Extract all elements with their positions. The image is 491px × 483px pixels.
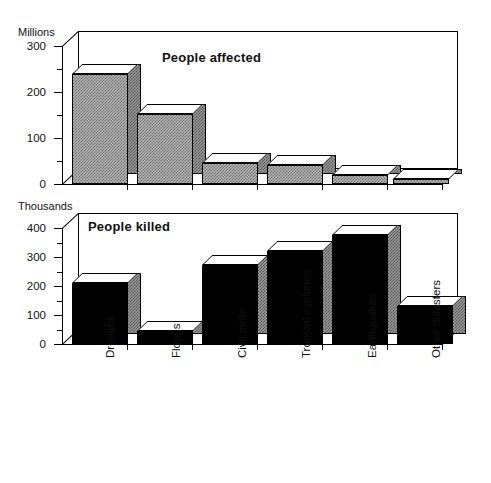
top-xtick-1	[127, 184, 128, 190]
bar-top-face	[202, 153, 268, 163]
category-label-floods: Floods	[170, 323, 182, 358]
bar-top-face	[72, 64, 138, 74]
top-bar-other-disasters	[393, 169, 465, 184]
top-bar-civil-strife	[202, 153, 274, 184]
bottom-ytick-200: 200	[16, 280, 46, 292]
bar-top-face	[137, 104, 203, 114]
top-tick-50	[57, 161, 63, 162]
bottom-tick-50	[57, 330, 63, 331]
bottom-xtick-3	[257, 344, 258, 350]
top-chart-unit-label: Millions	[18, 26, 55, 38]
category-label-earthquakes: Earthquakes	[366, 293, 378, 358]
bottom-tick-200	[54, 286, 63, 287]
bottom-xtick-2	[192, 344, 193, 350]
top-tick-200	[54, 92, 63, 93]
bar-top-face	[332, 225, 398, 235]
top-tick-100	[54, 138, 63, 139]
bar-front-face	[267, 251, 323, 344]
bottom-xtick-6	[442, 344, 443, 350]
top-tick-150	[57, 115, 63, 116]
bar-front-face	[137, 331, 193, 344]
category-label-civil-strife: Civil strife	[236, 308, 248, 358]
top-xtick-2	[192, 184, 193, 190]
top-tick-250	[57, 69, 63, 70]
bottom-ytick-0: 0	[16, 338, 46, 350]
top-ytick-0: 0	[16, 178, 46, 190]
bottom-xtick-1	[127, 344, 128, 350]
bottom-tick-300	[54, 257, 63, 258]
bottom-chart-unit-label: Thousands	[18, 200, 72, 212]
top-ytick-300: 300	[16, 40, 46, 52]
bar-top-face	[267, 241, 333, 251]
chart-people-affected: Millions 300 200 100 0 P	[0, 0, 491, 195]
top-bar-floods	[137, 104, 209, 184]
top-bar-drought	[72, 64, 144, 184]
top-xtick-5	[387, 184, 388, 190]
top-frame-diagonal-top	[62, 31, 79, 47]
top-xtick-6	[442, 184, 443, 190]
disaster-impact-figure: Millions 300 200 100 0 P	[0, 0, 491, 483]
category-label-drought: Drought	[104, 317, 116, 358]
bar-front-face	[72, 74, 128, 184]
bar-front-face	[137, 114, 193, 184]
bottom-tick-350	[57, 243, 63, 244]
bottom-xtick-5	[387, 344, 388, 350]
bar-front-face	[332, 175, 388, 184]
bottom-tick-100	[54, 315, 63, 316]
top-ytick-200: 200	[16, 86, 46, 98]
bar-front-face	[332, 235, 388, 344]
bar-front-face	[267, 165, 323, 184]
bottom-floor-front-edge	[62, 344, 442, 345]
bar-top-face	[393, 169, 459, 179]
bottom-chart-title: People killed	[88, 219, 170, 234]
bottom-ytick-100: 100	[16, 309, 46, 321]
top-bar-tropical-cyclones	[267, 155, 339, 184]
bar-front-face	[393, 179, 449, 184]
top-floor-front-edge	[62, 184, 442, 185]
bar-front-face	[202, 163, 258, 184]
bottom-frame-diagonal-top	[62, 213, 79, 229]
bottom-xtick-4	[322, 344, 323, 350]
bar-top-face	[202, 255, 268, 265]
category-label-other-disasters: Other disasters	[430, 280, 442, 358]
bar-front-face	[72, 283, 128, 344]
bottom-ytick-400: 400	[16, 222, 46, 234]
bar-top-face	[332, 165, 398, 175]
bar-front-face	[397, 306, 453, 344]
bottom-tick-250	[57, 272, 63, 273]
bar-top-face	[72, 273, 138, 283]
top-xtick-3	[257, 184, 258, 190]
top-chart-title: People affected	[162, 50, 261, 65]
top-xtick-4	[322, 184, 323, 190]
bottom-tick-150	[57, 301, 63, 302]
top-ytick-100: 100	[16, 132, 46, 144]
bar-front-face	[202, 265, 258, 344]
category-label-tropical-cyclones: Tropical cyclones	[300, 270, 312, 358]
bar-top-face	[267, 155, 333, 165]
bottom-ytick-300: 300	[16, 251, 46, 263]
